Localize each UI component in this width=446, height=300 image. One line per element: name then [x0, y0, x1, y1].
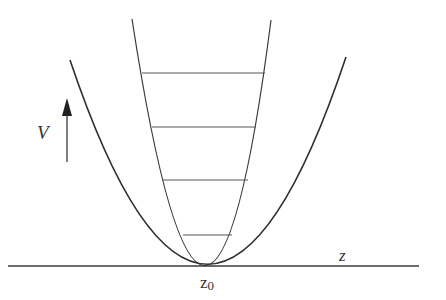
narrow-potential-curve [132, 19, 271, 266]
wide-potential-curve [70, 57, 346, 264]
z0-label-subscript: 0 [208, 278, 215, 293]
energy-levels [142, 73, 265, 235]
v-arrow-icon [62, 98, 72, 162]
z-axis-label: z [338, 246, 346, 265]
potential-well-diagram: V z z0 [0, 0, 446, 300]
v-axis-label: V [37, 122, 51, 143]
z0-label: z0 [200, 273, 214, 293]
